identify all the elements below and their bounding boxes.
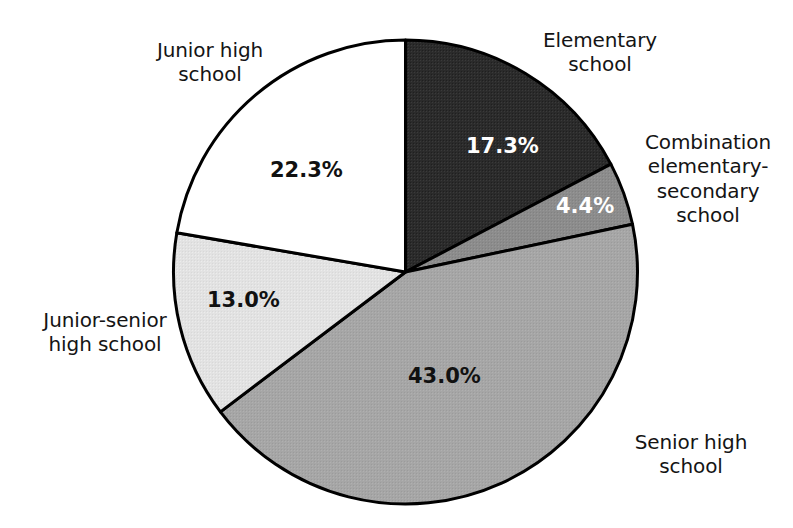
slice-value-combination: 4.4% bbox=[556, 194, 614, 218]
slice-label-junior-high: Junior high school bbox=[105, 38, 315, 87]
slice-value-junior-senior-high: 13.0% bbox=[207, 288, 280, 312]
slice-label-senior-high: Senior high school bbox=[596, 430, 786, 479]
slice-label-junior-senior-high: Junior-senior high school bbox=[10, 308, 200, 357]
slice-value-senior-high: 43.0% bbox=[408, 364, 481, 388]
slice-label-elementary: Elementary school bbox=[500, 28, 700, 77]
pie-slices bbox=[173, 40, 637, 504]
slice-label-combination: Combination elementary- secondary school bbox=[623, 130, 793, 228]
slice-value-junior-high: 22.3% bbox=[270, 158, 343, 182]
slice-value-elementary: 17.3% bbox=[466, 134, 539, 158]
pie-chart: Junior high school Elementary school Com… bbox=[0, 0, 793, 528]
